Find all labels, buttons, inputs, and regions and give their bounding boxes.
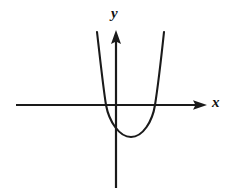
coordinate-plane-plot [0, 0, 235, 196]
y-axis-label: y [111, 6, 118, 21]
parabola-curve [97, 32, 164, 137]
graph-figure: y x [0, 0, 235, 196]
x-axis-label: x [212, 95, 220, 110]
